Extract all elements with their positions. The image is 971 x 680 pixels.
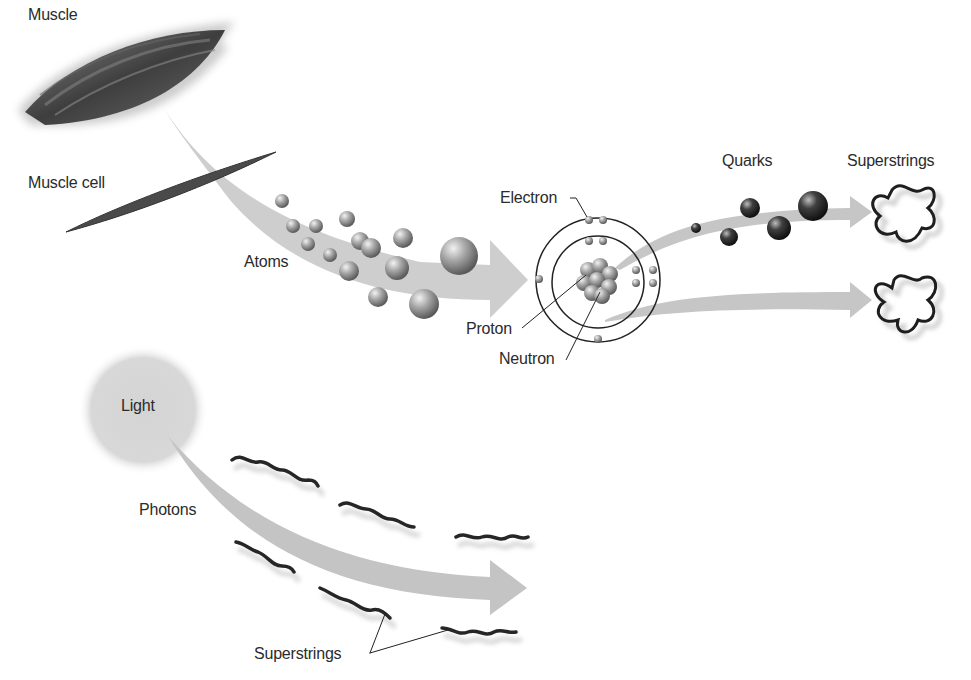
label-neutron: Neutron bbox=[499, 350, 555, 368]
arrow-to-superstrings bbox=[605, 282, 872, 322]
label-muscle-cell: Muscle cell bbox=[28, 174, 105, 192]
label-superstrings-top: Superstrings bbox=[847, 152, 934, 170]
label-atoms: Atoms bbox=[244, 253, 288, 271]
superstring-loop-top bbox=[873, 186, 941, 247]
label-electron: Electron bbox=[500, 189, 557, 207]
label-proton: Proton bbox=[466, 320, 512, 338]
label-superstrings-bottom: Superstrings bbox=[254, 645, 341, 663]
label-quarks: Quarks bbox=[722, 152, 772, 170]
label-muscle: Muscle bbox=[28, 6, 77, 24]
diagram-canvas bbox=[0, 0, 971, 680]
photon-strings bbox=[232, 457, 532, 653]
atom-model bbox=[522, 198, 660, 360]
label-photons: Photons bbox=[139, 501, 196, 519]
label-light: Light bbox=[121, 397, 155, 415]
muscle-illustration bbox=[18, 22, 235, 126]
muscle-cell-illustration bbox=[66, 152, 276, 232]
arrow-photons bbox=[168, 436, 527, 615]
superstring-loop-bottom bbox=[875, 276, 941, 338]
